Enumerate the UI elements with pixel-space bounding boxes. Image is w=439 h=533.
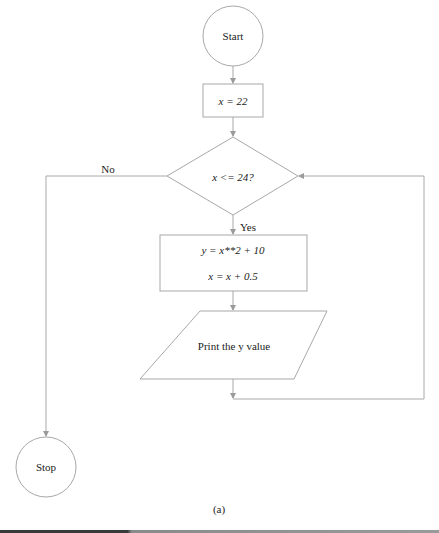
compute-line1: y = x**2 + 10 [201, 244, 264, 256]
edge-no-to-stop [46, 176, 167, 436]
no-edge-label: No [101, 163, 114, 175]
edge-loop-back-to-decision [233, 176, 424, 399]
decision-label-text: x <= 24? [212, 171, 254, 183]
output-label: Print the y value [198, 340, 270, 352]
init-label: x = 22 [219, 95, 248, 107]
compute-line2-text: x = x + 0.5 [208, 270, 257, 282]
compute-line1-text: y = x**2 + 10 [201, 244, 264, 256]
init-label-text: x = 22 [219, 95, 248, 107]
decision-label: x <= 24? [212, 171, 254, 183]
start-label: Start [223, 30, 244, 42]
flowchart-canvas [0, 0, 439, 533]
yes-edge-label: Yes [240, 221, 256, 233]
compute-line2: x = x + 0.5 [208, 270, 257, 282]
figure-caption: (a) [213, 503, 225, 515]
stop-label: Stop [36, 461, 56, 473]
